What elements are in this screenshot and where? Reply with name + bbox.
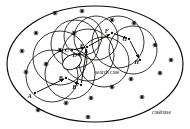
casebase-label: casebase — [152, 109, 171, 115]
cbr-search-diagram: ABB'CDEFGH search case casebase — [0, 0, 190, 129]
node-label-A: A — [27, 92, 32, 99]
path-node-Bp — [80, 84, 82, 86]
case-marker — [64, 101, 68, 105]
node-label-Bp: B' — [71, 83, 78, 90]
node-label-E: E — [79, 42, 84, 49]
node-label-G: G — [123, 35, 128, 42]
search-path-arrow-G-to-H — [130, 41, 139, 58]
node-label-D: D — [72, 51, 78, 58]
case-marker — [80, 9, 84, 13]
case-marker — [129, 77, 133, 81]
diagram-canvas: ABB'CDEFGH search case casebase — [0, 0, 190, 129]
path-node-G — [128, 38, 130, 40]
search-case-label: search case — [95, 69, 120, 75]
node-label-F: F — [105, 27, 110, 34]
case-marker — [20, 49, 24, 53]
path-node-E — [86, 46, 88, 48]
path-node-labels-group: ABB'CDEFGH — [27, 27, 139, 99]
case-marker — [86, 115, 90, 119]
path-node-D — [78, 53, 80, 55]
coverage-circle-8 — [109, 26, 157, 74]
case-marker — [158, 71, 162, 75]
case-marker — [34, 31, 38, 35]
case-marker — [140, 95, 144, 99]
path-node-A — [34, 92, 36, 94]
case-marker — [89, 96, 93, 100]
node-label-H: H — [133, 58, 139, 65]
path-node-B — [65, 77, 67, 79]
path-node-F — [111, 32, 113, 34]
case-markers-group — [20, 9, 173, 119]
node-label-B: B — [58, 74, 63, 81]
case-marker — [169, 58, 173, 62]
path-node-H — [139, 59, 141, 61]
